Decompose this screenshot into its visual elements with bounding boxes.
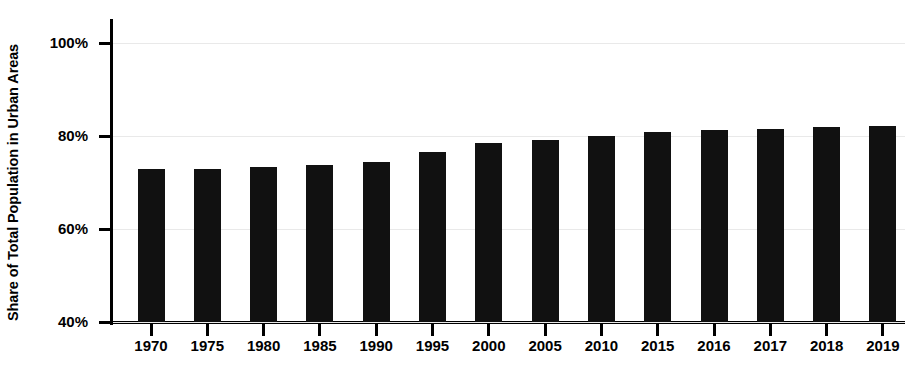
bar-2018 [813,127,840,322]
bar-1985 [306,165,333,322]
bar-2015 [644,132,671,322]
x-tick [881,324,884,336]
bar-2016 [701,130,728,322]
bar-1975 [194,169,221,322]
y-tick [99,135,112,138]
bar-2010 [588,136,615,322]
y-axis-tick-label: 80% [8,128,88,143]
gridline-40 [113,322,905,323]
x-tick [318,324,321,336]
x-tick [375,324,378,336]
bar-1970 [138,169,165,322]
y-axis-title: Share of Total Population in Urban Areas [0,0,26,365]
y-axis-tick-label: 40% [8,314,88,329]
bar-2000 [475,143,502,322]
x-axis-tick-label-2005: 2005 [515,338,575,353]
bar-2017 [757,129,784,322]
x-axis-tick-label-1975: 1975 [177,338,237,353]
x-tick [769,324,772,336]
x-tick [713,324,716,336]
y-tick [99,42,112,45]
x-tick [206,324,209,336]
y-tick [99,321,112,324]
bar-1990 [363,162,390,322]
bar-2019 [869,126,896,322]
y-axis-tick-label: 100% [8,35,88,50]
bar-2005 [532,140,559,322]
x-axis-tick-label-2018: 2018 [797,338,857,353]
x-axis-tick-label-1990: 1990 [346,338,406,353]
x-tick [825,324,828,336]
bar-1995 [419,152,446,322]
x-tick [487,324,490,336]
gridline-80 [113,136,905,137]
x-tick [262,324,265,336]
x-tick [150,324,153,336]
x-axis-tick-label-2017: 2017 [740,338,800,353]
gridline-60 [113,229,905,230]
x-axis-tick-label-2019: 2019 [853,338,905,353]
x-axis-tick-label-2010: 2010 [571,338,631,353]
x-axis-tick-label-1970: 1970 [121,338,181,353]
y-tick [99,228,112,231]
x-axis-tick-label-1985: 1985 [290,338,350,353]
gridline-100 [113,43,905,44]
x-axis-tick-label-2015: 2015 [628,338,688,353]
x-axis-tick-label-1980: 1980 [234,338,294,353]
x-axis-tick-label-2016: 2016 [684,338,744,353]
x-tick [656,324,659,336]
bar-1980 [250,167,277,322]
x-tick [544,324,547,336]
x-tick [431,324,434,336]
bar-chart: Share of Total Population in Urban Areas… [0,0,905,365]
x-axis-tick-label-2000: 2000 [459,338,519,353]
x-axis-tick-label-1995: 1995 [403,338,463,353]
y-axis-line [110,19,113,325]
y-axis-tick-label: 60% [8,221,88,236]
x-tick [600,324,603,336]
